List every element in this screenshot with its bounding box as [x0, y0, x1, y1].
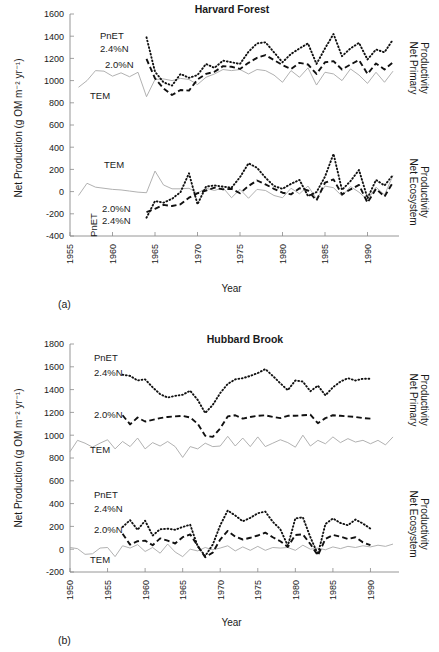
chart-hubbard-brook: -200020040060080010001200140016001800195…: [0, 320, 439, 652]
x-tick-label: 1990: [363, 244, 373, 264]
label-20n-npp: 2.0%N: [94, 409, 123, 420]
trace-pnet-20n-npp: [123, 415, 371, 437]
figure-container: -400-20002004006008001000120014001600195…: [0, 0, 439, 652]
label-24n-nep: 2.4%N: [102, 215, 131, 226]
y-tick-label: 1800: [44, 339, 64, 349]
y-tick-label: 1600: [44, 9, 64, 19]
trace-pnet-24n-nep: [123, 510, 371, 556]
x-tick-label: 1965: [178, 580, 188, 600]
x-tick-label: 1985: [320, 244, 330, 264]
trace-pnet-24n-npp: [147, 34, 394, 86]
x-tick-label: 1965: [150, 244, 160, 264]
y-tick-label: 1400: [44, 32, 64, 42]
x-tick-label: 1980: [278, 244, 288, 264]
label-20n-nep: 2.0%N: [102, 203, 131, 214]
label-20n-npp: 2.0%N: [105, 59, 134, 70]
x-tick-label: 1950: [65, 580, 75, 600]
y-tick-label: 400: [49, 143, 64, 153]
x-tick-label: 1960: [141, 580, 151, 600]
x-axis-title: Year: [221, 283, 242, 294]
chart-title: Harvard Forest: [195, 3, 270, 15]
chart-title: Hubbard Brook: [207, 333, 284, 345]
label-24n-npp: 2.4%N: [100, 43, 129, 54]
x-tick-label: 1970: [193, 244, 203, 264]
y-tick-label: 1400: [44, 385, 64, 395]
x-tick-label: 1975: [235, 244, 245, 264]
y-tick-label: -200: [46, 567, 64, 577]
x-tick-label: 1955: [103, 580, 113, 600]
x-tick-label: 1975: [253, 580, 263, 600]
x-tick-label: 1980: [291, 580, 301, 600]
trace-tem-npp: [79, 68, 394, 97]
y-tick-label: 1200: [44, 54, 64, 64]
label-pnet-npp: PnET: [100, 30, 124, 41]
trace-tem-npp: [70, 435, 393, 457]
right-label-nep-line2: Productivity: [419, 498, 430, 550]
label-pnet-npp: PnET: [94, 352, 118, 363]
right-label-nep-line2: Productivity: [419, 166, 430, 218]
x-tick-label: 1990: [366, 580, 376, 600]
label-pnet-nep: PnET: [88, 213, 99, 237]
y-tick-label: 1600: [44, 362, 64, 372]
trace-pnet-24n-npp: [123, 369, 371, 413]
y-axis-title: Net Production (g OM m⁻² yr⁻¹): [13, 59, 24, 198]
right-label-npp-line2: Productivity: [419, 374, 430, 426]
label-24n-nep: 2.4%N: [94, 503, 123, 514]
label-tem-nep: TEM: [90, 554, 110, 565]
label-tem-nep: TEM: [104, 159, 124, 170]
y-tick-label: -400: [46, 231, 64, 241]
x-tick-label: 1985: [328, 580, 338, 600]
label-tem-npp: TEM: [90, 444, 110, 455]
y-tick-label: 800: [49, 453, 64, 463]
x-tick-label: 1955: [65, 244, 75, 264]
y-tick-label: 200: [49, 522, 64, 532]
panel-letter: (b): [58, 634, 71, 646]
x-tick-label: 1960: [108, 244, 118, 264]
chart-harvard-forest: -400-20002004006008001000120014001600195…: [0, 0, 439, 320]
right-label-nep-line1: Net Ecosystem: [408, 158, 419, 225]
label-24n-npp: 2.4%N: [94, 367, 123, 378]
y-tick-label: 1200: [44, 408, 64, 418]
x-axis-title: Year: [221, 617, 242, 628]
right-label-npp-line1: Net Primary: [408, 42, 419, 95]
right-label-npp-line1: Net Primary: [408, 374, 419, 427]
label-20n-nep: 2.0%N: [94, 524, 123, 535]
label-pnet-nep: PnET: [94, 489, 118, 500]
y-tick-label: 0: [59, 545, 64, 555]
label-tem-npp: TEM: [90, 90, 110, 101]
x-tick-label: 1970: [216, 580, 226, 600]
panel-b-hubbard-brook: -200020040060080010001200140016001800195…: [0, 320, 439, 652]
panel-letter: (a): [58, 298, 71, 310]
y-axis-title: Net Production (g OM m⁻² yr⁻¹): [13, 389, 24, 528]
y-tick-label: 1000: [44, 431, 64, 441]
y-tick-label: 1000: [44, 76, 64, 86]
right-label-npp-line2: Productivity: [419, 42, 430, 94]
y-tick-label: -200: [46, 209, 64, 219]
y-tick-label: 400: [49, 499, 64, 509]
y-tick-label: 800: [49, 98, 64, 108]
y-tick-label: 600: [49, 120, 64, 130]
y-tick-label: 0: [59, 187, 64, 197]
y-tick-label: 200: [49, 165, 64, 175]
trace-tem-nep: [70, 544, 393, 557]
panel-a-harvard-forest: -400-20002004006008001000120014001600195…: [0, 0, 439, 320]
right-label-nep-line1: Net Ecosystem: [408, 490, 419, 557]
y-tick-label: 600: [49, 476, 64, 486]
